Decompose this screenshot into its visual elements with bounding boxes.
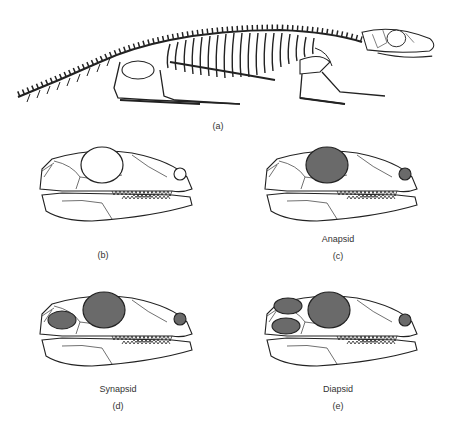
- panel-e-caption: Diapsid: [298, 384, 378, 394]
- skull-e-diapsid-drawing: [265, 292, 417, 366]
- panel-c-label: (c): [298, 251, 378, 261]
- figure-canvas: [0, 0, 450, 427]
- panel-c-caption: Anapsid: [298, 234, 378, 244]
- skull-d-synapsid-drawing: [40, 292, 192, 366]
- panel-b-label: (b): [63, 250, 143, 260]
- panel-a-label: (a): [178, 121, 258, 131]
- panel-e-label: (e): [298, 401, 378, 411]
- skull-b-drawing: [40, 147, 192, 221]
- skeleton-drawing: [18, 27, 434, 104]
- skull-c-anapsid-drawing: [265, 147, 417, 221]
- panel-d-caption: Synapsid: [78, 384, 158, 394]
- panel-d-label: (d): [78, 401, 158, 411]
